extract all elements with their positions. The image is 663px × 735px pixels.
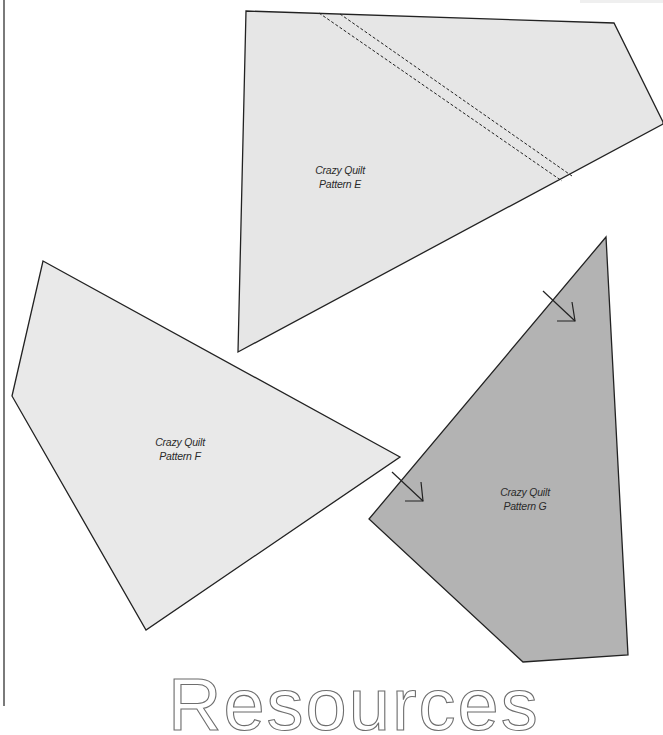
- pattern-f-label-line1: Crazy Quilt: [140, 435, 220, 449]
- pattern-piece-g: [369, 237, 628, 662]
- pattern-g-label: Crazy Quilt Pattern G: [485, 485, 565, 513]
- pattern-e-label-line1: Crazy Quilt: [300, 163, 380, 177]
- pattern-f-label-line2: Pattern F: [140, 449, 220, 463]
- pattern-g-label-line2: Pattern G: [485, 499, 565, 513]
- pattern-g-label-line1: Crazy Quilt: [485, 485, 565, 499]
- pattern-e-label-line2: Pattern E: [300, 177, 380, 191]
- pattern-e-label: Crazy Quilt Pattern E: [300, 163, 380, 191]
- section-heading: Resources: [168, 668, 540, 735]
- pattern-f-label: Crazy Quilt Pattern F: [140, 435, 220, 463]
